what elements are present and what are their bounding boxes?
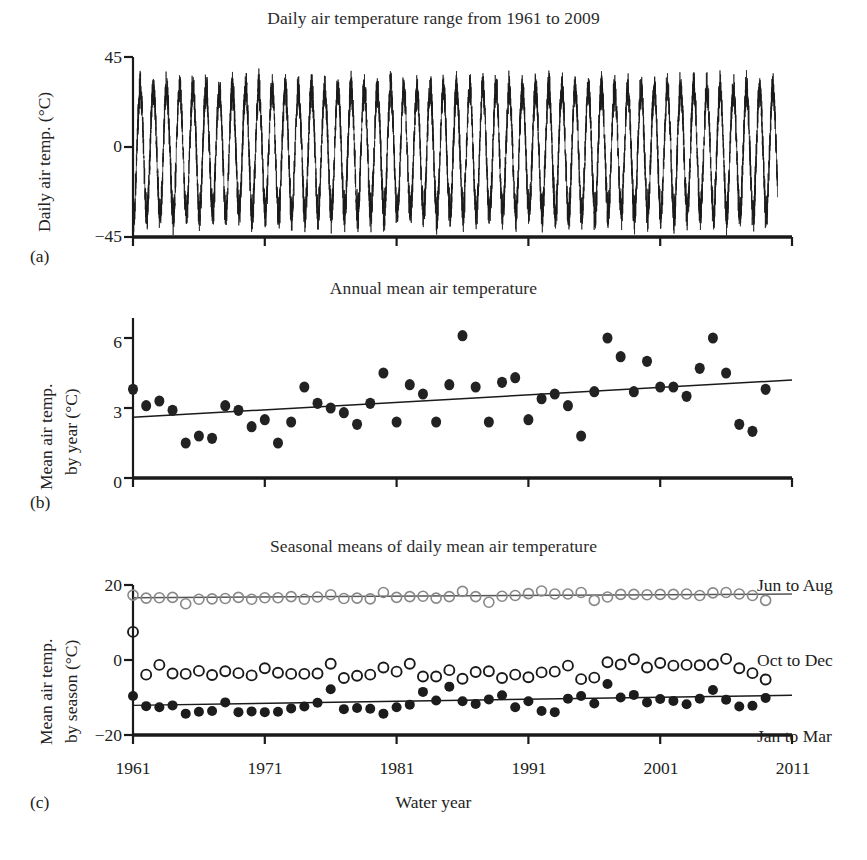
panel-c-data-point xyxy=(233,668,243,678)
panel-c-data-point xyxy=(207,594,217,604)
panel-c-data-point xyxy=(392,592,402,602)
panel-c-data-point xyxy=(721,654,731,664)
panel-c-data-point xyxy=(734,702,744,712)
panel-b-data-point xyxy=(629,386,639,397)
panel-c-data-point xyxy=(708,660,718,670)
panel-c-data-point xyxy=(339,704,349,714)
panel-b-data-point xyxy=(747,426,757,437)
panel-b-data-point xyxy=(444,379,454,390)
panel-b-data-point xyxy=(563,400,573,411)
panel-c-data-point xyxy=(141,670,151,680)
panel-c-data-point xyxy=(141,701,151,711)
panel-b-data-point xyxy=(616,351,626,362)
panel-c-data-point xyxy=(734,663,744,673)
panel-c-data-point xyxy=(378,709,388,719)
panel-c-data-point xyxy=(629,654,639,664)
panel-b-plot xyxy=(0,270,867,530)
panel-b-data-point xyxy=(365,398,375,409)
panel-c-data-point xyxy=(629,690,639,700)
panel-c-data-point xyxy=(563,694,573,704)
panel-c-data-point xyxy=(194,666,204,676)
panel-c-data-point xyxy=(313,669,323,679)
panel-c-data-point xyxy=(339,673,349,683)
panel-c-data-point xyxy=(510,670,520,680)
panel-c-data-point xyxy=(523,589,533,599)
panel-c-data-point xyxy=(392,702,402,712)
panel-c-data-point xyxy=(655,694,665,704)
panel-c-data-point xyxy=(273,707,283,717)
panel-c-data-point xyxy=(207,670,217,680)
panel-c-plot xyxy=(0,530,867,860)
panel-b-data-point xyxy=(721,367,731,378)
panel-c-data-point xyxy=(484,694,494,704)
panel-b-data-point xyxy=(168,405,178,416)
panel-c-data-point xyxy=(194,707,204,717)
panel-c-data-point xyxy=(655,658,665,668)
panel-b-data-point xyxy=(326,402,336,413)
panel-b-data-point xyxy=(471,381,481,392)
panel-c-data-point xyxy=(589,595,599,605)
panel-c-data-point xyxy=(589,673,599,683)
panel-c-data-point xyxy=(405,700,415,710)
panel-c-data-point xyxy=(682,660,692,670)
panel-c-data-point xyxy=(708,685,718,695)
panel-c-data-point xyxy=(537,706,547,716)
panel-c-data-point xyxy=(326,684,336,694)
panel-c-data-point xyxy=(563,589,573,599)
panel-c-data-point xyxy=(497,673,507,683)
panel-b-data-point xyxy=(458,330,468,341)
panel-c-data-point xyxy=(128,691,138,701)
panel-c-data-point xyxy=(220,697,230,707)
panel-c-data-point xyxy=(273,593,283,603)
panel-b-data-point xyxy=(523,414,533,425)
panel-c-data-point xyxy=(747,591,757,601)
panel-b: Annual mean air temperature Mean air tem… xyxy=(0,270,867,530)
panel-c-data-point xyxy=(247,594,257,604)
panel-c-data-point xyxy=(154,702,164,712)
panel-c-data-point xyxy=(550,667,560,677)
panel-c-data-point xyxy=(484,666,494,676)
panel-a-plot xyxy=(0,0,867,270)
panel-c-data-point xyxy=(642,663,652,673)
panel-b-data-point xyxy=(682,391,692,402)
panel-c-data-point xyxy=(510,702,520,712)
panel-c-data-point xyxy=(260,663,270,673)
panel-b-data-point xyxy=(510,372,520,383)
panel-b-data-point xyxy=(141,400,151,411)
panel-b-data-point xyxy=(655,381,665,392)
panel-c-data-point xyxy=(392,667,402,677)
panel-c-data-point xyxy=(523,696,533,706)
panel-c-data-point xyxy=(299,594,309,604)
panel-c-data-point xyxy=(484,597,494,607)
panel-b-data-point xyxy=(313,398,323,409)
panel-b-data-point xyxy=(734,419,744,430)
panel-c-data-point xyxy=(747,701,757,711)
panel-b-data-point xyxy=(484,416,494,427)
panel-c-data-point xyxy=(523,672,533,682)
panel-c-data-point xyxy=(537,667,547,677)
panel-c-data-point xyxy=(747,668,757,678)
panel-c-data-point xyxy=(602,657,612,667)
panel-b-data-point xyxy=(378,367,388,378)
panel-b-data-point xyxy=(352,419,362,430)
panel-c-data-point xyxy=(458,586,468,596)
panel-c-data-point xyxy=(194,594,204,604)
panel-b-data-point xyxy=(207,433,217,444)
panel-c-data-point xyxy=(537,586,547,596)
panel-c-data-point xyxy=(576,674,586,684)
panel-b-data-point xyxy=(273,437,283,448)
panel-c-data-point xyxy=(365,704,375,714)
panel-c-data-point xyxy=(721,588,731,598)
panel-c-data-point xyxy=(589,699,599,709)
panel-c-data-point xyxy=(418,672,428,682)
panel-b-data-point xyxy=(233,405,243,416)
panel-c-data-point xyxy=(708,588,718,598)
panel-c-data-point xyxy=(497,690,507,700)
panel-c-data-point xyxy=(352,703,362,713)
figure-root: Daily air temperature range from 1961 to… xyxy=(0,0,867,860)
panel-b-data-point xyxy=(708,332,718,343)
panel-c-data-point xyxy=(286,669,296,679)
panel-c-data-point xyxy=(602,592,612,602)
panel-c-data-point xyxy=(563,661,573,671)
panel-b-data-point xyxy=(537,393,547,404)
